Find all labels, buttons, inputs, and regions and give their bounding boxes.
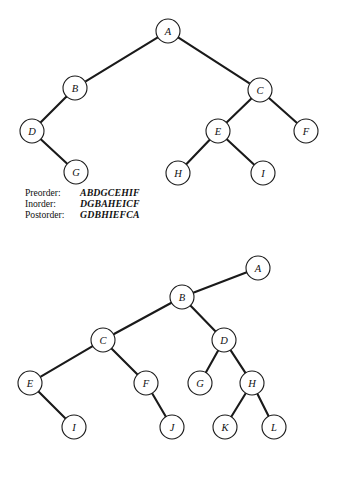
node-label-A: A <box>164 26 172 37</box>
traversal-row-inorder: Inorder: DGBAHEICF <box>25 198 339 209</box>
traversal-sequence-preorder: ABDGCEHIF <box>80 187 140 198</box>
tree-node-G: G <box>188 371 212 395</box>
traversal-list-1: Preorder: ABDGCEHIF Inorder: DGBAHEICF P… <box>25 187 339 221</box>
tree-edge-C-E <box>227 98 252 122</box>
traversal-label-preorder: Preorder: <box>25 187 80 198</box>
node-label-C: C <box>99 335 107 346</box>
binary-tree-traversal-figure-page: { "figures": [ { "id": "figure-1", "tree… <box>0 0 339 485</box>
tree-edge-C-F <box>269 98 297 123</box>
tree-edge-D-G <box>206 350 218 372</box>
tree-edge-B-D <box>40 96 66 122</box>
node-label-C: C <box>256 85 264 96</box>
tree-node-E: E <box>206 119 230 143</box>
tree-node-B: B <box>63 76 87 100</box>
tree-node-C: C <box>248 78 272 102</box>
tree-edge-B-C <box>114 303 172 335</box>
node-label-H: H <box>173 168 183 179</box>
tree-edge-F-J <box>152 393 166 416</box>
tree-2-svg: ABCDEFGHIJKL <box>0 245 339 440</box>
node-label-E: E <box>214 126 222 137</box>
tree-edge-A-C <box>178 37 250 83</box>
tree-node-D: D <box>20 119 44 143</box>
tree-edge-E-H <box>186 140 209 165</box>
node-label-A: A <box>254 263 262 274</box>
node-label-B: B <box>179 292 186 303</box>
tree-1-svg: ABCDEFGHI <box>0 0 339 190</box>
node-label-H: H <box>247 378 257 389</box>
tree-node-H: H <box>240 371 264 395</box>
traversal-sequence-postorder: GDBHIEFCA <box>80 209 140 220</box>
tree-edge-E-I <box>38 391 65 418</box>
traversal-label-inorder: Inorder: <box>25 198 80 209</box>
tree-edge-D-G <box>41 139 67 164</box>
node-label-F: F <box>302 126 310 137</box>
tree-node-D: D <box>212 328 236 352</box>
node-label-D: D <box>27 126 36 137</box>
tree-edge-E-I <box>227 139 254 165</box>
node-label-G: G <box>196 378 204 389</box>
tree-node-J: J <box>160 415 184 439</box>
tree-edge-A-B <box>85 37 158 81</box>
tree-edge-D-H <box>231 350 246 373</box>
traversal-row-preorder: Preorder: ABDGCEHIF <box>25 187 339 198</box>
tree-node-A: A <box>246 256 270 280</box>
tree-node-A: A <box>156 19 180 43</box>
traversal-label-postorder: Postorder: <box>25 209 80 220</box>
tree-node-C: C <box>91 328 115 352</box>
tree-figure-2: ABCDEFGHIJKL Preorder: ABCEIFJDGHKL Inor… <box>0 245 339 485</box>
node-label-L: L <box>270 422 277 433</box>
tree-node-G: G <box>64 160 88 184</box>
node-label-I: I <box>71 422 76 433</box>
tree-edge-A-B <box>193 272 247 292</box>
binary-tree-diagram-1: ABCDEFGHI <box>0 0 339 190</box>
traversal-row-postorder: Postorder: GDBHIEFCA <box>25 209 339 220</box>
node-label-E: E <box>26 378 34 389</box>
tree-figure-1: ABCDEFGHI Preorder: ABDGCEHIF Inorder: D… <box>0 0 339 240</box>
tree-node-I: I <box>62 415 86 439</box>
tree-node-H: H <box>166 161 190 185</box>
tree-edge-H-L <box>257 394 268 417</box>
tree-edge-C-F <box>111 348 137 374</box>
tree-node-K: K <box>213 415 237 439</box>
traversal-sequence-inorder: DGBAHEICF <box>80 198 140 209</box>
tree-node-F: F <box>134 371 158 395</box>
node-label-D: D <box>219 335 228 346</box>
node-label-G: G <box>72 167 80 178</box>
tree-node-B: B <box>170 285 194 309</box>
node-label-K: K <box>220 422 229 433</box>
tree-node-E: E <box>18 371 42 395</box>
node-label-F: F <box>142 378 150 389</box>
binary-tree-diagram-2: ABCDEFGHIJKL <box>0 245 339 440</box>
node-label-B: B <box>72 83 79 94</box>
tree-node-L: L <box>262 415 286 439</box>
tree-node-F: F <box>294 119 318 143</box>
tree-edge-H-K <box>231 393 245 417</box>
node-label-I: I <box>260 168 265 179</box>
tree-edge-C-E <box>40 346 92 377</box>
tree-edge-B-D <box>190 306 215 332</box>
tree-node-I: I <box>251 161 275 185</box>
